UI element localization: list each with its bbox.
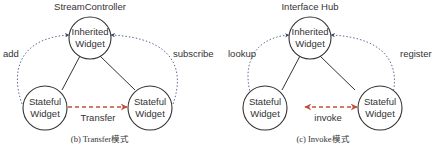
node-stateful-widget-right: Stateful Widget xyxy=(358,86,402,130)
svg-text:Stateful: Stateful xyxy=(29,96,61,107)
edge-top-left xyxy=(62,56,80,90)
node-stateful-widget-left: Stateful Widget xyxy=(23,86,67,130)
panel-invoke-mode: Interface Hub lookup register invoke Inh… xyxy=(228,1,432,144)
svg-text:Widget: Widget xyxy=(295,38,325,49)
node-inherited-widget: Inherited Widget xyxy=(69,17,111,59)
panel-transfer-mode: StreamController add subscribe Transfer … xyxy=(3,1,214,144)
svg-text:Inherited: Inherited xyxy=(72,26,109,37)
panel-caption: (c) Invoke模式 xyxy=(296,134,349,144)
svg-text:Stateful: Stateful xyxy=(134,96,166,107)
edge-label-subscribe: subscribe xyxy=(173,48,214,59)
svg-text:Stateful: Stateful xyxy=(364,96,396,107)
edge-top-right xyxy=(320,56,355,90)
panel-caption: (b) Transfer模式 xyxy=(71,134,129,144)
svg-text:Widget: Widget xyxy=(250,108,280,119)
svg-text:Widget: Widget xyxy=(135,108,165,119)
svg-text:Widget: Widget xyxy=(75,38,105,49)
svg-text:Widget: Widget xyxy=(30,108,60,119)
svg-text:Stateful: Stateful xyxy=(249,96,281,107)
edge-top-right xyxy=(100,56,135,90)
edge-top-left xyxy=(282,56,300,90)
edge-label-add: add xyxy=(3,48,19,59)
svg-text:Inherited: Inherited xyxy=(292,26,329,37)
edge-label-transfer: Transfer xyxy=(80,112,115,123)
node-inherited-widget: Inherited Widget xyxy=(289,17,331,59)
edge-label-lookup: lookup xyxy=(228,48,256,59)
edge-label-register: register xyxy=(400,48,432,59)
svg-text:Widget: Widget xyxy=(365,108,395,119)
panel-title: StreamController xyxy=(54,1,126,12)
edge-label-invoke: invoke xyxy=(314,112,341,123)
node-stateful-widget-right: Stateful Widget xyxy=(128,86,172,130)
node-stateful-widget-left: Stateful Widget xyxy=(243,86,287,130)
panel-title: Interface Hub xyxy=(281,1,338,12)
